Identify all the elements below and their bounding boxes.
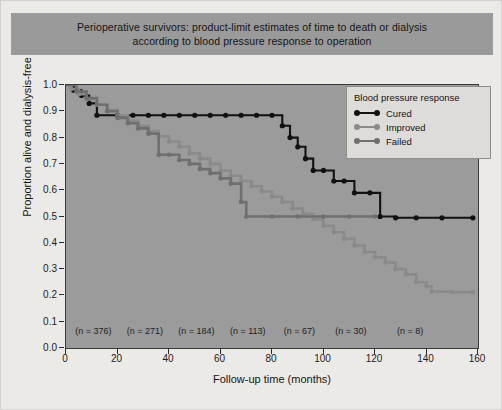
- y-tick-label: 0.4: [31, 236, 57, 247]
- figure-container: Perioperative survivors: product-limit e…: [0, 0, 502, 410]
- censor-marker: [198, 156, 203, 161]
- censor-marker: [218, 176, 223, 181]
- y-tick-mark: [59, 268, 64, 269]
- x-tick-label: 120: [366, 353, 383, 364]
- censor-marker: [208, 113, 213, 118]
- censor-marker: [373, 255, 378, 260]
- legend-item-failed: Failed: [354, 134, 483, 148]
- censor-marker: [332, 230, 337, 235]
- series-failed: [66, 85, 377, 219]
- censor-marker: [229, 181, 234, 186]
- y-tick-label: 0.9: [31, 105, 57, 116]
- censor-marker: [450, 290, 455, 295]
- censor-marker: [352, 243, 357, 248]
- y-tick-label: 0.5: [31, 210, 57, 221]
- x-tick-label: 0: [62, 353, 68, 364]
- at-risk-count-label: (n = 184): [178, 326, 214, 336]
- x-tick-label: 40: [162, 353, 173, 364]
- censor-marker: [295, 214, 300, 219]
- at-risk-count-label: (n = 67): [284, 326, 315, 336]
- censor-marker: [239, 113, 244, 118]
- censor-marker: [69, 87, 74, 92]
- at-risk-counts-row: (n = 376)(n = 271)(n = 184)(n = 113)(n =…: [65, 326, 479, 340]
- legend-swatch-icon: [354, 136, 380, 146]
- censor-marker: [404, 272, 409, 277]
- legend-item-label: Cured: [386, 108, 412, 119]
- at-risk-count-label: (n = 376): [75, 326, 111, 336]
- censor-marker: [146, 131, 151, 136]
- censor-marker: [342, 237, 347, 242]
- x-axis-tick-labels: 020406080100120140160: [65, 353, 479, 367]
- censor-marker: [414, 215, 419, 220]
- x-tick-mark: [271, 349, 272, 354]
- censor-marker: [321, 223, 326, 228]
- censor-marker: [74, 89, 79, 94]
- censor-marker: [378, 214, 383, 219]
- legend-swatch-icon: [354, 122, 380, 132]
- censor-marker: [95, 102, 100, 107]
- censor-marker: [321, 214, 326, 219]
- at-risk-count-label: (n = 113): [230, 326, 266, 336]
- y-tick-mark: [59, 110, 64, 111]
- censor-marker: [177, 158, 182, 163]
- censor-marker: [254, 113, 259, 118]
- y-tick-mark: [59, 163, 64, 164]
- legend-box: Blood pressure response CuredImprovedFai…: [346, 86, 491, 159]
- y-tick-mark: [59, 347, 64, 348]
- censor-marker: [269, 113, 274, 118]
- y-tick-label: 0.0: [31, 342, 57, 353]
- at-risk-count-label: (n = 8): [397, 326, 423, 336]
- censor-marker: [259, 189, 264, 194]
- censor-marker: [280, 123, 285, 128]
- censor-marker: [470, 215, 475, 220]
- x-tick-label: 100: [314, 353, 331, 364]
- censor-marker: [424, 284, 429, 289]
- censor-marker: [198, 167, 203, 172]
- censor-marker: [177, 145, 182, 150]
- censor-marker: [249, 184, 254, 189]
- y-tick-mark: [59, 189, 64, 190]
- censor-marker: [126, 121, 131, 126]
- censor-marker: [167, 152, 172, 157]
- y-tick-mark: [59, 294, 64, 295]
- censor-marker: [352, 190, 357, 195]
- censor-marker: [192, 113, 197, 118]
- legend-title: Blood pressure response: [354, 92, 483, 103]
- x-tick-mark: [477, 349, 478, 354]
- censor-marker: [270, 214, 275, 219]
- censor-marker: [471, 290, 476, 295]
- x-tick-mark: [323, 349, 324, 354]
- series-line: [66, 85, 375, 217]
- y-tick-mark: [59, 242, 64, 243]
- legend-swatch-icon: [354, 108, 380, 118]
- censor-marker: [295, 144, 300, 149]
- x-tick-label: 60: [214, 353, 225, 364]
- censor-marker: [156, 152, 161, 157]
- censor-marker: [84, 96, 89, 101]
- y-axis-tick-labels: 0.00.10.20.30.40.50.60.70.80.91.0: [29, 84, 57, 349]
- censor-marker: [105, 109, 110, 114]
- censor-marker: [393, 267, 398, 272]
- y-tick-label: 0.7: [31, 157, 57, 168]
- censor-marker: [303, 156, 308, 161]
- y-tick-mark: [59, 84, 64, 85]
- censor-marker: [331, 178, 336, 183]
- censor-marker: [383, 260, 388, 265]
- censor-marker: [161, 113, 166, 118]
- censor-marker: [290, 206, 295, 211]
- censor-marker: [321, 168, 326, 173]
- y-tick-label: 0.6: [31, 184, 57, 195]
- legend-item-cured: Cured: [354, 106, 483, 120]
- at-risk-count-label: (n = 271): [127, 326, 163, 336]
- censor-marker: [208, 162, 213, 167]
- censor-marker: [393, 215, 398, 220]
- censor-marker: [167, 139, 172, 144]
- censor-marker: [287, 135, 292, 140]
- legend-item-improved: Improved: [354, 120, 483, 134]
- x-tick-mark: [65, 349, 66, 354]
- x-tick-mark: [168, 349, 169, 354]
- censor-marker: [115, 116, 120, 121]
- censor-marker: [130, 113, 135, 118]
- y-tick-label: 0.3: [31, 263, 57, 274]
- chart-title-line-2: according to blood pressure response to …: [133, 34, 372, 48]
